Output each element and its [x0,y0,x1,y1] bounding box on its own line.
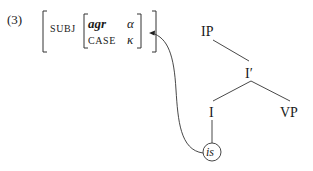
terminal-is: is [206,145,214,159]
tree-node-i: I [209,105,214,120]
inner-right-bracket [137,14,141,48]
edge-ibar-vp [251,81,290,101]
example-number: (3) [7,12,22,27]
tree-node-i-bar: I′ [245,66,253,81]
tree-node-ip: IP [201,24,214,39]
avm-case-attribute: CASE [88,35,116,46]
edge-ip-ibar [213,40,249,61]
avm-agr-value: α [127,16,135,31]
avm-subj-label: SUBJ [50,23,76,34]
projection-arrow [152,33,203,153]
avm-case-value: κ [127,32,134,47]
lfg-diagram: (3) SUBJ agr α CASE κ IP I′ I VP is [0,0,313,171]
tree-node-vp: VP [280,105,298,120]
outer-left-bracket [43,11,47,52]
avm-agr-attribute: agr [88,16,107,31]
arrowhead-icon [149,31,155,36]
edge-ibar-i [213,81,251,101]
